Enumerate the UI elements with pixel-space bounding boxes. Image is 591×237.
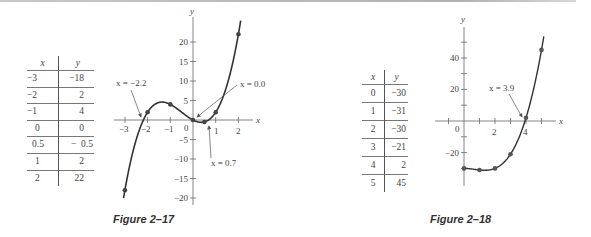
curve-line bbox=[464, 36, 544, 170]
x-tick-label: 2 bbox=[236, 126, 241, 136]
y-tick-label: −15 bbox=[174, 174, 189, 184]
charts-canvas: x y −3 −2 −1 0 1 2 20 15 10 5 bbox=[0, 0, 591, 237]
x-tick-label: −2 bbox=[141, 124, 151, 134]
x-tick-label: 2 bbox=[492, 127, 497, 137]
curve-line bbox=[124, 21, 241, 198]
figure-2-17-caption: Figure 2–17 bbox=[113, 213, 174, 225]
x-tick-label: −1 bbox=[164, 124, 174, 134]
x-tick-label: 0 bbox=[455, 124, 460, 134]
y-tick-label: −5 bbox=[178, 135, 188, 145]
y-tick-label: −20 bbox=[174, 193, 189, 203]
annotation-label: x = 0.0 bbox=[240, 79, 266, 89]
annotation-label: x = 3.9 bbox=[489, 83, 515, 93]
x-tick-label: 1 bbox=[214, 126, 219, 136]
annotation-arrow bbox=[209, 126, 211, 158]
y-tick-label: 15 bbox=[179, 57, 189, 67]
annotation-label: x = −2.2 bbox=[116, 78, 146, 88]
y-tick-label: −20 bbox=[445, 148, 460, 158]
y-axis-label: y bbox=[460, 14, 465, 24]
figure-2-17-plot: x y −3 −2 −1 0 1 2 20 15 10 5 bbox=[114, 6, 266, 205]
x-axis-label: x bbox=[558, 116, 563, 126]
y-tick-label: 40 bbox=[450, 53, 460, 63]
y-tick-label: 20 bbox=[179, 37, 189, 47]
y-tick-label: −10 bbox=[174, 154, 189, 164]
data-points bbox=[462, 48, 544, 173]
annotation-arrow bbox=[131, 90, 141, 117]
annotation-arrow bbox=[509, 94, 522, 117]
y-tick-label: 10 bbox=[179, 76, 189, 86]
y-axis-label: y bbox=[189, 6, 194, 16]
x-tick-label: 4 bbox=[523, 127, 528, 137]
figure-2-18-plot: x y 0 2 4 40 20 −20 bbox=[435, 14, 563, 186]
x-tick-label: −3 bbox=[119, 124, 129, 134]
x-tick-label: 0 bbox=[184, 123, 189, 133]
x-axis-label: x bbox=[255, 115, 260, 125]
figure-2-18-caption: Figure 2–18 bbox=[430, 213, 491, 225]
y-tick-label: 5 bbox=[184, 96, 189, 106]
annotation-label: x = 0.7 bbox=[211, 158, 237, 168]
y-tick-label: 20 bbox=[450, 84, 460, 94]
